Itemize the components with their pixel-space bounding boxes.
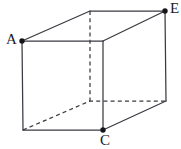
- vertex-dot-a: [19, 38, 24, 43]
- edge-top-right-diagonal: [103, 11, 165, 41]
- cuboid-svg-canvas: [0, 0, 181, 149]
- edge-top-left-diagonal: [22, 11, 90, 41]
- edge-back-right-vertical: [165, 11, 166, 101]
- vertex-label-e: E: [170, 1, 179, 16]
- vertex-dot-e: [162, 8, 167, 13]
- vertex-label-a: A: [6, 32, 17, 47]
- vertex-dots-group: [19, 8, 167, 132]
- solid-edges-group: [22, 11, 166, 130]
- vertex-label-c: C: [100, 133, 110, 148]
- edge-bottom-right-diagonal: [103, 101, 166, 130]
- hidden-edges-group: [23, 11, 166, 130]
- edge-front-left: [22, 41, 23, 130]
- cuboid-figure: A C E: [0, 0, 181, 149]
- edge-bottom-left-diagonal: [23, 101, 90, 130]
